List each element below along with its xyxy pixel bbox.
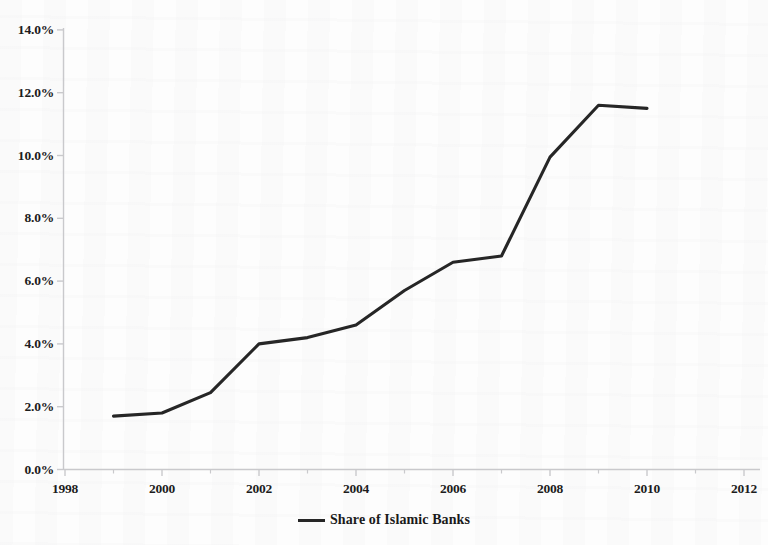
y-axis-tick-label: 4.0% — [24, 336, 54, 352]
x-axis-tick-label: 2000 — [149, 481, 175, 497]
y-axis-tick-label: 0.0% — [24, 462, 54, 478]
y-axis-tick-label: 10.0% — [18, 148, 54, 164]
x-axis-tick-label: 2008 — [537, 481, 563, 497]
y-axis-ticks — [57, 30, 64, 470]
x-axis-ticks — [65, 470, 744, 477]
series-line-share-of-islamic-banks — [114, 105, 648, 416]
chart-legend: Share of Islamic Banks — [0, 512, 768, 528]
x-axis-tick-label: 1998 — [52, 481, 78, 497]
x-axis — [64, 470, 761, 477]
x-axis-tick-label: 2010 — [634, 481, 660, 497]
x-axis-tick-label: 2006 — [440, 481, 466, 497]
y-axis-tick-label: 12.0% — [18, 85, 54, 101]
x-axis-tick-label: 2002 — [246, 481, 272, 497]
legend-entry-label: Share of Islamic Banks — [330, 512, 470, 528]
y-axis-tick-label: 8.0% — [24, 210, 54, 226]
y-axis — [57, 28, 64, 470]
chart-container: 0.0%2.0%4.0%6.0%8.0%10.0%12.0%14.0% 1998… — [0, 0, 768, 545]
x-axis-tick-label: 2004 — [343, 481, 369, 497]
y-axis-tick-label: 14.0% — [18, 22, 54, 38]
line-chart-plot — [0, 0, 768, 545]
x-axis-tick-label: 2012 — [731, 481, 757, 497]
y-axis-tick-label: 2.0% — [24, 399, 54, 415]
y-axis-tick-label: 6.0% — [24, 273, 54, 289]
legend-line-marker — [298, 519, 325, 522]
